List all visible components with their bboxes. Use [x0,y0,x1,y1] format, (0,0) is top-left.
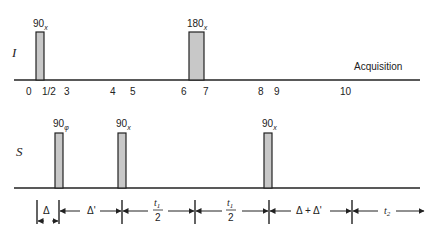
interval-t2-label: t2 [384,205,391,218]
interval-delta-label: Δ [43,205,50,216]
interval-deltaprime-label: Δ' [87,205,96,216]
time-point-0: 0 [26,86,32,97]
pulse-i-180x [189,32,204,80]
time-point-7: 7 [203,86,209,97]
pulse-sequence-diagram: I 90x 180x Acquisition 0 1/2 3 4 5 6 7 8… [0,0,436,235]
pulse-s-90x-1 [118,133,126,188]
acquisition-label: Acquisition [354,61,402,72]
pulse-s-90phi [55,133,63,188]
time-point-4: 4 [110,86,116,97]
pulse-s-90x-2 [264,133,272,188]
pulse-s-90phi-label: 90φ [53,118,69,132]
pulse-sequence-svg: I 90x 180x Acquisition 0 1/2 3 4 5 6 7 8… [0,0,436,235]
time-point-3: 3 [64,86,70,97]
channel-label-i: I [11,45,17,60]
time-point-6: 6 [181,86,187,97]
interval-t1half-2-denominator: 2 [228,212,234,223]
channel-label-s: S [16,144,23,159]
interval-t1half-2-numerator: t1 [227,197,233,210]
time-point-10: 10 [340,86,352,97]
time-point-8: 8 [258,86,264,97]
interval-delta-sum-label: Δ + Δ' [296,205,322,216]
interval-t1half-1-numerator: t1 [154,197,160,210]
time-point-5: 5 [130,86,136,97]
time-point-1-2: 1/2 [42,86,56,97]
time-point-9: 9 [274,86,280,97]
pulse-s-90x-1-label: 90x [116,118,131,131]
pulse-s-90x-2-label: 90x [262,118,277,131]
pulse-i-180x-label: 180x [187,18,208,31]
pulse-i-90x-label: 90x [33,18,48,31]
interval-t1half-1-denominator: 2 [155,212,161,223]
pulse-i-90x [36,32,44,80]
